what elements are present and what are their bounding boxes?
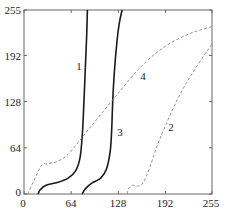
- x-tick-label-255: 255: [203, 197, 220, 209]
- curve-label-4: 4: [140, 70, 146, 82]
- y-tick-label-64: 64: [10, 142, 22, 154]
- x-tick-label-192: 192: [157, 197, 174, 209]
- curve-label-1: 1: [76, 60, 82, 72]
- curve-label-2: 2: [168, 121, 174, 133]
- chart-svg: 255 192 128 64 0 0 64 128 192 255 1 3 4 …: [0, 0, 226, 214]
- y-tick-label-192: 192: [5, 50, 22, 62]
- curve-2: [127, 44, 212, 194]
- x-tick-label-128: 128: [110, 197, 127, 209]
- x-tick-label-64: 64: [66, 197, 78, 209]
- x-tick-label-0: 0: [20, 197, 26, 209]
- curve-1: [38, 10, 87, 194]
- curve-3: [82, 10, 122, 194]
- y-tick-label-128: 128: [5, 96, 22, 108]
- curve-label-3: 3: [117, 126, 123, 138]
- series-layer: [28, 10, 212, 194]
- y-tick-label-255: 255: [5, 4, 22, 16]
- curve-4: [28, 27, 212, 194]
